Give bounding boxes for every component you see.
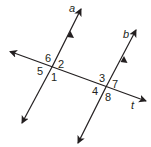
diagram-svg bbox=[0, 0, 151, 147]
angle-label-4: 4 bbox=[92, 86, 98, 97]
angle-label-8: 8 bbox=[105, 92, 111, 103]
line-label-a: a bbox=[69, 3, 75, 14]
angle-label-6: 6 bbox=[45, 53, 51, 64]
angle-label-3: 3 bbox=[99, 73, 105, 84]
line-label-t: t bbox=[131, 100, 134, 111]
angle-label-1: 1 bbox=[51, 72, 57, 83]
line-t bbox=[10, 52, 28, 59]
diagram-canvas: a b t 6 2 5 1 3 7 4 8 bbox=[0, 0, 151, 147]
angle-label-5: 5 bbox=[37, 66, 43, 77]
angle-label-7: 7 bbox=[112, 79, 118, 90]
line-label-b: b bbox=[123, 29, 129, 40]
line-a bbox=[52, 9, 81, 67]
angle-label-2: 2 bbox=[58, 59, 64, 70]
line-b bbox=[106, 30, 136, 87]
